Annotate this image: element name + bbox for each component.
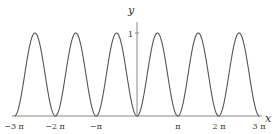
x-tick-label-neg3pi: −3 π	[4, 122, 24, 131]
y-axis-label: y	[127, 4, 135, 17]
chart: y 1 x −3 π −2 π −π π 2 π 3 π	[0, 0, 274, 134]
x-tick-label-pi: π	[175, 122, 180, 131]
x-tick-label-2pi: 2 π	[213, 122, 226, 131]
x-tick-label-3pi: 3 π	[253, 122, 266, 131]
x-tick-label-negpi: −π	[90, 122, 102, 131]
x-axis-label: x	[265, 112, 272, 125]
x-tick-label-neg2pi: −2 π	[45, 122, 65, 131]
y-tick-label-1: 1	[128, 30, 133, 39]
